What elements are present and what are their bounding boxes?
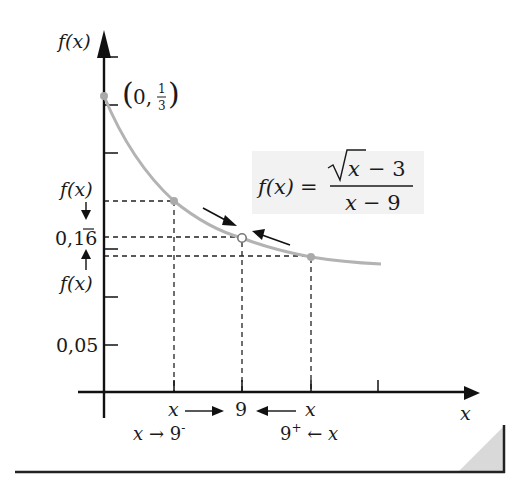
svg-text:0,: 0, xyxy=(133,85,152,109)
svg-text:− 3: − 3 xyxy=(368,157,406,181)
fx-upper-label: f(x) xyxy=(58,178,93,200)
y-axis-arrow-icon xyxy=(97,30,111,58)
fx-lower-label: f(x) xyxy=(58,272,93,294)
x-axis-arrow-icon xyxy=(464,386,480,400)
arrow-left-icon xyxy=(256,406,296,416)
svg-text:3: 3 xyxy=(158,99,166,113)
svg-text:f(x): f(x) xyxy=(256,175,294,199)
x-left-label: x xyxy=(168,398,179,420)
guide-lines xyxy=(104,201,311,392)
point-0 xyxy=(100,92,108,100)
arrow-right-icon xyxy=(185,406,224,416)
page-corner xyxy=(458,427,503,472)
arrow-down-icon xyxy=(81,202,91,220)
x-nine-label: 9 xyxy=(235,398,247,420)
svg-text:− 9: − 9 xyxy=(363,191,401,215)
arrow-up-icon xyxy=(81,249,91,270)
y-axis-label: f(x) xyxy=(56,30,91,52)
svg-text:(: ( xyxy=(122,76,134,111)
limit-diagram: f(x) ( 0, 1 3 ) f(x) = x − 3 x − 9 f(x) … xyxy=(0,0,516,492)
x-right-label: x xyxy=(305,398,316,420)
point-label: ( 0, 1 3 ) xyxy=(122,76,180,113)
tick-005-label: 0,05 xyxy=(56,334,98,356)
limit-value-label: 0,16 xyxy=(55,227,97,249)
svg-text:1: 1 xyxy=(158,82,166,96)
left-limit-label: x → 9- xyxy=(133,421,185,444)
x-axis-label: x xyxy=(460,402,471,424)
svg-text:x: x xyxy=(345,191,357,215)
svg-text:x: x xyxy=(348,157,360,181)
svg-text:): ) xyxy=(168,76,180,111)
point-left xyxy=(170,197,178,205)
x-ticks xyxy=(174,380,378,392)
right-limit-label: 9+ ← x xyxy=(280,421,338,444)
point-right xyxy=(307,253,315,261)
svg-text:=: = xyxy=(300,175,318,199)
hole-point xyxy=(238,234,246,242)
